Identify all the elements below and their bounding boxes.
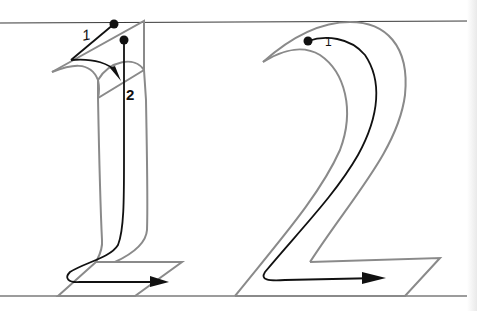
digit-one-stroke-1-start-dot xyxy=(110,20,119,29)
digit-one-stroke-1-arrowhead xyxy=(110,66,121,81)
handwriting-diagram: 1 2 1 xyxy=(0,0,477,311)
digit-one-stroke-2 xyxy=(67,40,165,282)
top-guide-line xyxy=(0,21,470,23)
digit-two-stroke-1-arrowhead xyxy=(362,272,386,284)
digit-two-stroke-1-label: 1 xyxy=(325,35,332,49)
digit-one-stroke-2-start-dot xyxy=(120,36,129,45)
digit-one-outline xyxy=(52,21,182,296)
digit-two-stroke-1-start-dot xyxy=(304,37,313,46)
page-edge-shadow xyxy=(467,0,477,311)
digit-two-outline xyxy=(235,22,440,296)
digit-one-stroke-2-label: 2 xyxy=(126,86,134,103)
